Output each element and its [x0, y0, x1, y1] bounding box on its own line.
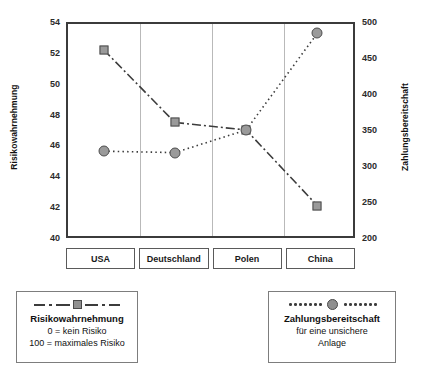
y-tick-right: 400 — [362, 89, 377, 99]
legend-right-line1: für eine unsichere — [269, 325, 395, 337]
y-tick-right: 300 — [362, 161, 377, 171]
legend-dot — [374, 303, 377, 306]
series-lines — [68, 24, 353, 236]
legend-dot — [359, 303, 362, 306]
y-axis-right-title: Zahlungsbereitschaft — [400, 67, 410, 187]
square-marker-icon — [73, 300, 82, 309]
category-box: USA — [66, 248, 135, 269]
circle-marker-icon — [327, 299, 338, 310]
legend-dot — [304, 303, 307, 306]
legend-dot — [364, 303, 367, 306]
legend-sample-dashdot — [34, 299, 120, 310]
legend-dot — [299, 303, 302, 306]
legend-dot — [319, 303, 322, 306]
y-tick-left: 42 — [50, 202, 60, 212]
plot-area — [66, 22, 355, 238]
y-tick-right: 200 — [362, 233, 377, 243]
legend-dot — [354, 303, 357, 306]
data-point-circle — [98, 146, 109, 157]
legend-sample-dotted — [289, 299, 375, 310]
chart-page: 4042444648505254 200250300350400450500 R… — [0, 0, 421, 375]
legend-left-line2: 100 = maximales Risiko — [17, 337, 137, 349]
category-box: Deutschland — [139, 248, 208, 269]
legend-left-title: Risikowahrnehmung — [17, 313, 137, 325]
legend-zahlungsbereitschaft: Zahlungsbereitschaft für eine unsichere … — [268, 291, 396, 363]
legend-left-line1: 0 = kein Risiko — [17, 325, 137, 337]
legend-right-line2: Anlage — [269, 337, 395, 349]
y-axis-right: 200250300350400450500 — [358, 0, 400, 250]
data-point-circle — [312, 28, 323, 39]
y-tick-left: 46 — [50, 140, 60, 150]
y-axis-left-title: Risikowahrnehmung — [9, 67, 19, 187]
data-point-square — [170, 118, 179, 127]
legend-dot — [309, 303, 312, 306]
data-point-square — [313, 201, 322, 210]
category-box: China — [286, 248, 355, 269]
y-tick-left: 50 — [50, 79, 60, 89]
legend-dot — [344, 303, 347, 306]
data-point-square — [99, 45, 108, 54]
legend-dot — [369, 303, 372, 306]
series-line-left — [104, 50, 318, 206]
y-tick-right: 500 — [362, 17, 377, 27]
legend-dot — [294, 303, 297, 306]
y-tick-left: 40 — [50, 233, 60, 243]
category-labels: USADeutschlandPolenChina — [66, 248, 355, 269]
category-box: Polen — [213, 248, 282, 269]
legend-right-title: Zahlungsbereitschaft — [269, 313, 395, 325]
data-point-circle — [241, 125, 252, 136]
y-tick-right: 350 — [362, 125, 377, 135]
legend-dot — [289, 303, 292, 306]
y-tick-right: 250 — [362, 197, 377, 207]
series-line-right — [104, 33, 318, 152]
y-tick-left: 54 — [50, 17, 60, 27]
legend-dot — [349, 303, 352, 306]
y-tick-left: 52 — [50, 48, 60, 58]
y-tick-left: 48 — [50, 110, 60, 120]
legend-dot — [314, 303, 317, 306]
y-tick-right: 450 — [362, 53, 377, 63]
chart-canvas: 4042444648505254 200250300350400450500 R… — [0, 0, 421, 250]
y-tick-left: 44 — [50, 171, 60, 181]
legend-risikowahrnehmung: Risikowahrnehmung 0 = kein Risiko 100 = … — [16, 291, 138, 363]
data-point-circle — [169, 147, 180, 158]
